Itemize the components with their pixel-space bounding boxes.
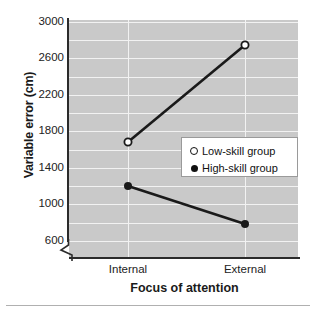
x-axis-title: Focus of attention bbox=[69, 281, 300, 295]
data-point-high-skill-external bbox=[241, 220, 249, 228]
filled-circle-icon bbox=[188, 162, 200, 174]
legend: Low-skill group High-skill group bbox=[181, 137, 298, 177]
x-tick-label-internal: Internal bbox=[83, 263, 173, 275]
footer-divider bbox=[6, 305, 310, 306]
legend-item-low-skill: Low-skill group bbox=[188, 142, 297, 159]
data-point-low-skill-external bbox=[241, 41, 248, 48]
data-point-high-skill-internal bbox=[124, 182, 132, 190]
figure: Variable error (cm) 3000 2600 2200 1800 … bbox=[0, 0, 316, 315]
series-line-high-skill bbox=[128, 186, 245, 224]
legend-label: High-skill group bbox=[202, 162, 278, 174]
series-line-low-skill bbox=[128, 45, 245, 142]
legend-label: Low-skill group bbox=[202, 145, 275, 157]
open-circle-icon bbox=[188, 145, 200, 157]
data-point-low-skill-internal bbox=[124, 138, 131, 145]
legend-item-high-skill: High-skill group bbox=[188, 159, 297, 176]
x-tick-label-external: External bbox=[200, 263, 290, 275]
